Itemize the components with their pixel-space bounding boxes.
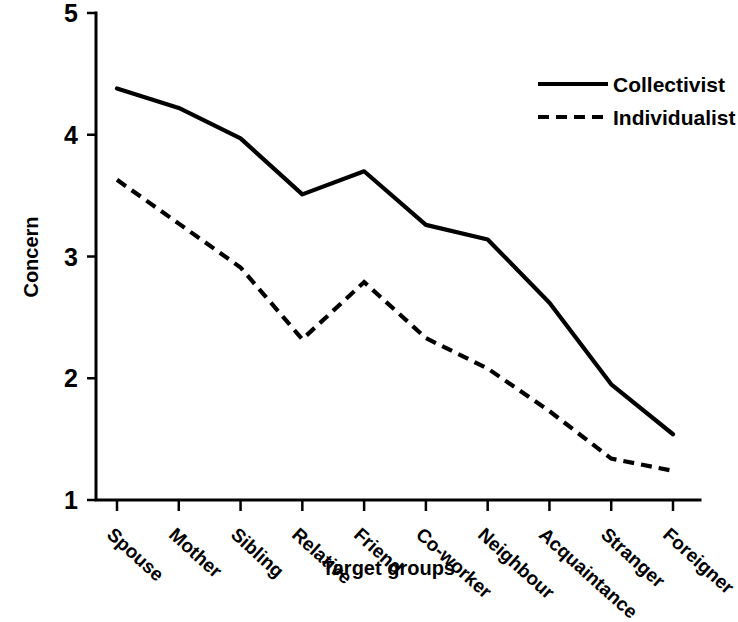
x-axis-ticks: [117, 500, 673, 511]
legend-label-collectivist: Collectivist: [613, 74, 725, 95]
series-line-collectivist: [117, 88, 673, 434]
chart-series-group: [117, 88, 673, 470]
series-line-individualist: [117, 180, 673, 471]
y-tick-label: 3: [48, 244, 78, 269]
y-axis-title: Concern: [21, 202, 41, 312]
legend-label-individualist: Individualist: [613, 107, 736, 128]
legend-swatch-dashed: [536, 110, 610, 124]
legend-item-individualist: Individualist: [536, 105, 736, 129]
y-tick-label: 1: [48, 488, 78, 513]
x-axis-title: Target groups: [322, 558, 455, 578]
legend-item-collectivist: Collectivist: [536, 72, 725, 96]
y-tick-label: 2: [48, 366, 78, 391]
y-tick-label: 5: [48, 1, 78, 26]
legend-swatch-solid: [536, 77, 610, 91]
y-tick-label: 4: [48, 122, 78, 147]
